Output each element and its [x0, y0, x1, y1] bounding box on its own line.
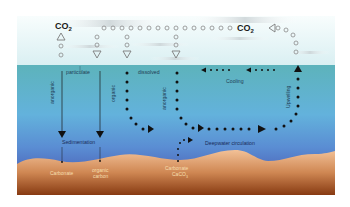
upwelling-label: Upwelling — [285, 85, 291, 108]
sedimentation-label: Sedimentation — [62, 139, 95, 145]
deepwater-circulation-label: Deepwater circulation — [205, 140, 255, 146]
dissolved-label: dissolved — [138, 69, 160, 75]
cooling-label: Cooling — [226, 78, 244, 84]
carbonate-left-label: Carbonate — [50, 170, 74, 176]
ocean-carbon-cycle-diagram: CO2 CO2 particulate anorganic organic di… — [0, 0, 350, 207]
anorganic-dissolved-label: anorganic — [161, 87, 167, 110]
carbonate-burial-dot — [61, 161, 63, 163]
organic-carbon-label-line2: carbon — [93, 173, 109, 179]
particulate-label: particulate — [66, 69, 90, 75]
anorganic-particulate-label: anorganic — [49, 81, 55, 104]
organic-burial-dot — [99, 160, 101, 162]
